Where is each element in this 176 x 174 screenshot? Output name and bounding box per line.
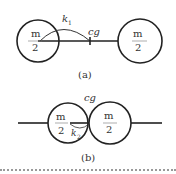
cg-label-b: cg <box>84 92 96 103</box>
radius-label-b: k <box>71 128 76 138</box>
right-mass-numerator-b: m <box>104 110 114 121</box>
caption-b: (b) <box>81 152 95 163</box>
caption-a: (a) <box>78 69 92 80</box>
left-mass-denominator-b: 2 <box>58 125 64 136</box>
right-mass-denominator-a: 2 <box>135 42 141 53</box>
cg-label-a: cg <box>88 26 100 37</box>
dumbbell-diagram: m 2 m 2 k 1 cg (a) m 2 m 2 k 2 cg (b) <box>0 0 176 174</box>
radius-arc-a <box>40 30 90 42</box>
left-mass-denominator-a: 2 <box>32 42 38 53</box>
left-mass-numerator-a: m <box>31 28 41 39</box>
figure-b: m 2 m 2 k 2 cg (b) <box>18 92 162 163</box>
right-mass-numerator-a: m <box>133 28 143 39</box>
radius-subscript-b: 2 <box>77 133 81 140</box>
radius-subscript-a: 1 <box>68 19 72 26</box>
figure-a: m 2 m 2 k 1 cg (a) <box>17 13 162 80</box>
right-mass-denominator-b: 2 <box>106 124 112 135</box>
left-mass-numerator-b: m <box>56 111 66 122</box>
bottom-divider <box>0 169 176 171</box>
